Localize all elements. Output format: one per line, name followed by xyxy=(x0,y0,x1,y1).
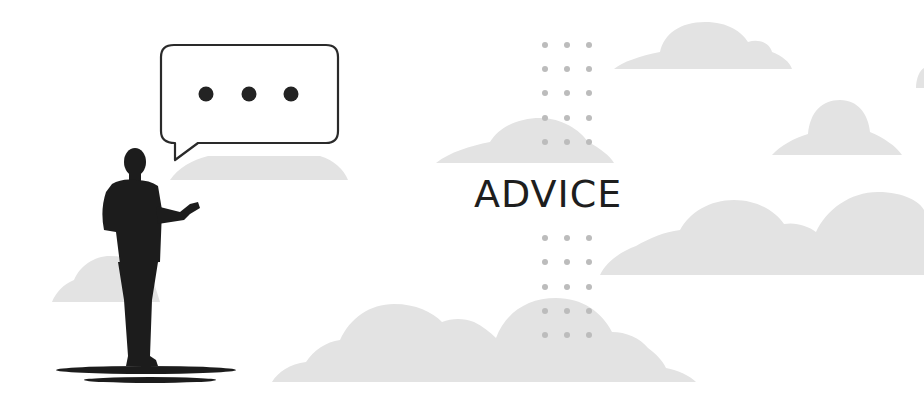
cloud-icon xyxy=(170,156,348,180)
cloud-icon xyxy=(772,100,902,155)
background-scene xyxy=(0,0,924,411)
speech-bubble-icon xyxy=(161,45,338,160)
ground-shadow xyxy=(56,366,236,383)
cloud-icon xyxy=(916,68,924,88)
cloud-icon xyxy=(272,298,696,382)
advice-title: ADVICE xyxy=(474,170,654,218)
cloud-icon xyxy=(614,22,792,69)
advice-illustration: ADVICE xyxy=(0,0,924,411)
